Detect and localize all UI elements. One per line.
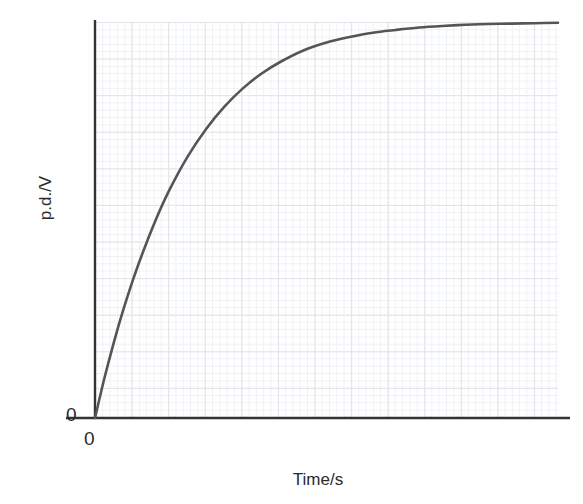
x-axis-label: Time/s <box>258 470 378 490</box>
x-axis-origin-zero-label: 0 <box>84 428 95 450</box>
chart-figure: p.d./V Time/s 0 0 <box>0 0 583 504</box>
y-axis-label: p.d./V <box>36 168 56 228</box>
y-axis-origin-zero-label: 0 <box>66 404 77 426</box>
charging-curve <box>95 23 558 418</box>
